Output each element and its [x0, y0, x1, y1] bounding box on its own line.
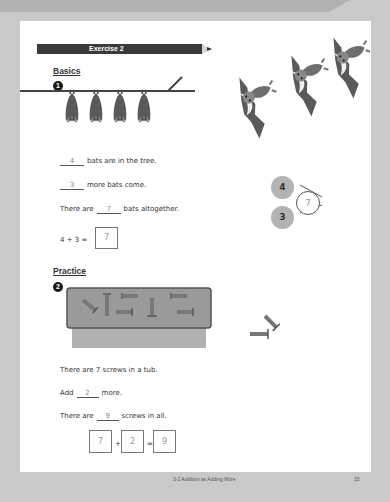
branch-with-hanging-bats-illustration	[20, 76, 230, 136]
practice-equation-result[interactable]: 9	[153, 430, 176, 453]
practice-heading: Practice	[53, 266, 86, 276]
sentence-text: more bats come.	[87, 181, 146, 189]
basics-sentence-3: There are7bats altogether.	[60, 205, 179, 214]
hanging-bat-icon	[138, 91, 151, 123]
flying-bat-icon	[232, 67, 290, 140]
flying-bat-icon	[326, 29, 370, 100]
answer-blank[interactable]: 7	[97, 205, 121, 214]
workbook-page: Exercise 2 Basics 1	[20, 21, 371, 472]
basics-equation-answer-box[interactable]: 7	[95, 227, 118, 249]
answer-blank[interactable]: 3	[60, 181, 84, 190]
pencil-lead-icon	[207, 47, 212, 51]
practice-equation-addend-2[interactable]: 2	[121, 430, 144, 453]
sentence-prefix: There are	[60, 412, 94, 420]
hanging-bat-icon	[66, 91, 79, 123]
tub-of-screws-illustration	[65, 286, 295, 351]
hanging-bat-icons	[66, 91, 151, 123]
answer-blank[interactable]: 4	[60, 157, 84, 166]
extra-screw-icons	[250, 312, 280, 339]
sentence-suffix: more.	[102, 389, 122, 397]
basics-sentence-1: 4bats are in the tree.	[60, 157, 157, 166]
basics-heading: Basics	[53, 66, 80, 76]
equals-sign: =	[147, 440, 153, 448]
answer-blank[interactable]: 9	[97, 412, 119, 421]
number-bond-whole[interactable]: 7	[296, 191, 320, 215]
number-bond-part-1: 4	[271, 176, 294, 199]
plus-sign: +	[115, 440, 121, 448]
basics-sentence-2: 3more bats come.	[60, 181, 146, 190]
practice-sentence-2: Add2more.	[60, 389, 122, 398]
answer-blank[interactable]: 2	[77, 389, 99, 398]
practice-equation-addend-1[interactable]: 7	[89, 430, 112, 453]
hanging-bat-icon	[114, 91, 127, 123]
sentence-text: bats are in the tree.	[87, 157, 157, 165]
problem-number-2: 2	[53, 282, 63, 292]
flying-bats-illustration	[220, 29, 370, 159]
practice-sentence-3: There are9screws in all.	[60, 412, 167, 421]
sentence-suffix: bats altogether.	[124, 205, 179, 213]
top-banner	[0, 0, 350, 12]
footer-lesson-title: 3-2 Addition as Adding More	[173, 476, 236, 482]
practice-sentence-1: There are 7 screws in a tub.	[60, 366, 158, 374]
exercise-title-bar: Exercise 2	[37, 44, 202, 54]
page-number: 33	[354, 476, 360, 482]
flying-bat-icon	[284, 45, 342, 118]
basics-equation-expression: 4 + 3 =	[60, 236, 87, 244]
twig-icon	[168, 77, 182, 91]
tub-icon	[67, 288, 211, 328]
sentence-prefix: Add	[60, 389, 74, 397]
hanging-bat-icon	[90, 91, 103, 123]
sentence-prefix: There are	[60, 205, 94, 213]
number-bond-part-2: 3	[271, 206, 294, 229]
sentence-suffix: screws in all.	[122, 412, 167, 420]
